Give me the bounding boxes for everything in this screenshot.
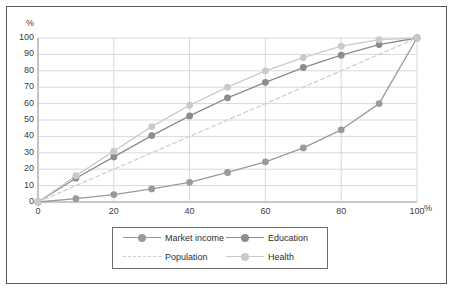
- y-tick-label: 80: [8, 65, 34, 75]
- legend-item-population[interactable]: Population: [123, 252, 208, 262]
- data-point-health: [186, 102, 193, 109]
- data-point-market-income: [110, 191, 117, 198]
- data-point-education: [148, 132, 155, 139]
- y-axis-unit-label: %: [26, 18, 34, 28]
- data-point-education: [224, 94, 231, 101]
- data-point-market-income: [338, 126, 345, 133]
- legend-item-market-income[interactable]: Market income: [123, 233, 224, 243]
- y-tick-label: 10: [8, 180, 34, 190]
- data-point-market-income: [262, 158, 269, 165]
- legend-swatch-population: [123, 252, 161, 262]
- data-point-health: [110, 148, 117, 155]
- legend-label: Population: [165, 252, 208, 262]
- y-tick-label: 30: [8, 147, 34, 157]
- data-point-market-income: [300, 144, 307, 151]
- y-tick-label: 100: [8, 32, 34, 42]
- y-tick-label: 50: [8, 114, 34, 124]
- x-tick-label: 20: [99, 206, 129, 216]
- x-tick-label: 80: [326, 206, 356, 216]
- y-tick-label: 20: [8, 163, 34, 173]
- chart-figure: % % 1009080706050403020100 020406080100 …: [0, 0, 453, 290]
- y-tick-label: 60: [8, 98, 34, 108]
- x-tick-label: 0: [23, 206, 53, 216]
- data-point-health: [338, 43, 345, 50]
- legend-marker-circle-icon: [241, 234, 249, 242]
- data-point-health: [262, 67, 269, 74]
- legend-item-health[interactable]: Health: [226, 252, 294, 262]
- y-tick-label: 70: [8, 81, 34, 91]
- x-tick-label: 40: [175, 206, 205, 216]
- x-tick-label: 100: [402, 206, 432, 216]
- data-point-market-income: [186, 179, 193, 186]
- y-tick-label: 90: [8, 48, 34, 58]
- data-point-education: [186, 113, 193, 120]
- data-point-market-income: [148, 185, 155, 192]
- legend-swatch-health: [226, 252, 264, 262]
- legend-entries-container: Market incomeEducationPopulationHealth: [113, 228, 327, 268]
- legend-marker-circle-icon: [138, 234, 146, 242]
- data-point-health: [35, 199, 42, 206]
- data-point-education: [300, 64, 307, 71]
- data-point-market-income: [73, 195, 80, 202]
- data-point-market-income: [376, 100, 383, 107]
- legend-dashed-line: [123, 256, 161, 257]
- chart-legend: Market incomeEducationPopulationHealth: [112, 227, 328, 269]
- data-point-health: [376, 36, 383, 43]
- data-point-health: [73, 172, 80, 179]
- data-point-health: [148, 123, 155, 130]
- legend-swatch-market-income: [123, 233, 161, 243]
- y-tick-label: 40: [8, 130, 34, 140]
- legend-item-education[interactable]: Education: [226, 233, 308, 243]
- data-point-market-income: [224, 169, 231, 176]
- data-point-education: [338, 52, 345, 59]
- legend-label: Education: [268, 233, 308, 243]
- data-point-education: [262, 79, 269, 86]
- legend-label: Health: [268, 252, 294, 262]
- legend-marker-circle-icon: [241, 253, 249, 261]
- data-point-health: [414, 35, 421, 42]
- x-tick-label: 60: [250, 206, 280, 216]
- y-tick-label: 0: [8, 196, 34, 206]
- legend-swatch-education: [226, 233, 264, 243]
- data-point-health: [224, 84, 231, 91]
- legend-label: Market income: [165, 233, 224, 243]
- data-point-health: [300, 54, 307, 61]
